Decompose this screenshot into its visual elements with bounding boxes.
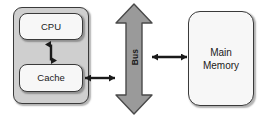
cpu-cache-double-arrow-icon [42,39,60,66]
cpu-label: CPU [41,21,61,33]
bus-memory-double-arrow-icon [147,48,192,66]
bus-label-text: Bus [130,49,140,65]
cache-box[interactable]: Cache [19,64,83,92]
cpu-box[interactable]: CPU [19,13,83,40]
diagram-canvas: CPU Cache Bus [0,0,264,117]
main-memory-label: Main Memory [203,46,239,72]
cache-label: Cache [37,72,64,84]
cache-bus-double-arrow-icon [80,69,120,87]
main-memory-box[interactable]: Main Memory [188,11,254,106]
bus-label: Bus [122,44,148,70]
